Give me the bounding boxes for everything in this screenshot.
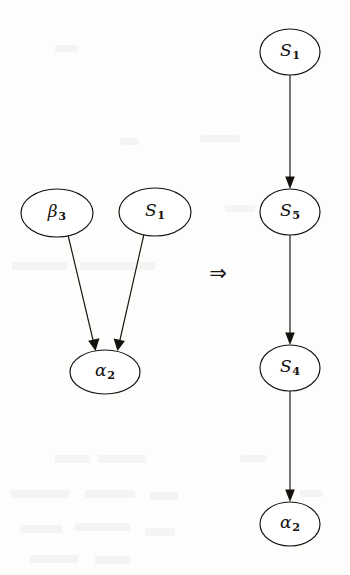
figure-root: β3 S1 α2 ⇒ S1 S5 S4 α2 (0, 0, 350, 575)
node-label-lhs-alpha2: α2 (95, 362, 115, 381)
implies-arrow-icon: ⇒ (209, 263, 227, 284)
edge-rhs-s5-to-s4 (285, 235, 295, 345)
node-label-lhs-s1: S1 (145, 202, 165, 221)
node-label-lhs-beta3: β3 (48, 203, 66, 222)
node-label-rhs-s1: S1 (280, 42, 300, 61)
node-label-rhs-alpha2: α2 (280, 514, 300, 533)
rhs-graph (260, 29, 320, 546)
graph-canvas (0, 0, 350, 575)
node-label-rhs-s5: S5 (280, 202, 300, 221)
edge-rhs-s1-to-s5 (285, 75, 295, 189)
edge-rhs-s4-to-alpha2 (285, 391, 295, 502)
edge-beta3-to-alpha2 (68, 235, 100, 351)
node-label-rhs-s4: S4 (280, 358, 300, 377)
edge-lhs-s1-to-alpha2 (114, 234, 144, 351)
